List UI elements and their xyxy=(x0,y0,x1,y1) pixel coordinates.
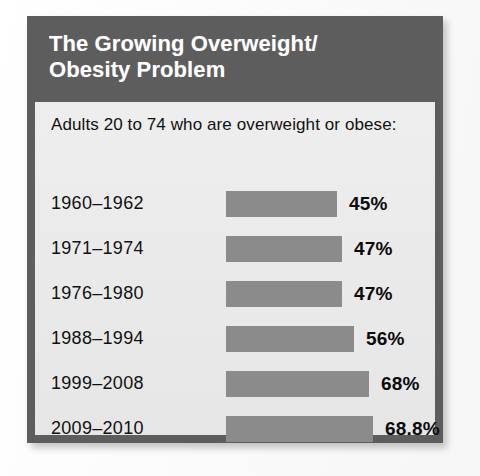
bar xyxy=(226,326,354,352)
chart-subtitle: Adults 20 to 74 who are overweight or ob… xyxy=(51,114,411,137)
bar-chart-row: 1976–198047% xyxy=(35,271,435,316)
bar xyxy=(226,416,373,442)
card-header: The Growing Overweight/ Obesity Problem xyxy=(27,16,443,96)
chart-panel: Adults 20 to 74 who are overweight or ob… xyxy=(35,102,435,435)
bar-value-label: 45% xyxy=(349,193,388,215)
bar xyxy=(226,281,342,307)
bar xyxy=(226,191,337,217)
bar-track: 68.8% xyxy=(226,416,435,442)
bar-row-label: 1971–1974 xyxy=(51,238,206,259)
bar-value-label: 47% xyxy=(354,238,393,260)
bar-chart-row: 1971–197447% xyxy=(35,226,435,271)
bar-row-label: 1960–1962 xyxy=(51,193,206,214)
bar xyxy=(226,371,369,397)
bar-row-label: 1988–1994 xyxy=(51,328,206,349)
bar-track: 45% xyxy=(226,191,435,217)
bar-chart-row: 2009–201068.8% xyxy=(35,406,435,451)
bar-track: 47% xyxy=(226,236,435,262)
bar xyxy=(226,236,342,262)
card-title: The Growing Overweight/ Obesity Problem xyxy=(49,31,429,83)
bar-chart-row: 1988–199456% xyxy=(35,316,435,361)
bar-row-label: 1999–2008 xyxy=(51,373,206,394)
infographic-card: The Growing Overweight/ Obesity Problem … xyxy=(27,16,443,443)
bar-chart-rows: 1960–196245%1971–197447%1976–198047%1988… xyxy=(35,181,435,451)
bar-row-label: 2009–2010 xyxy=(51,418,206,439)
card-title-line-2: Obesity Problem xyxy=(49,57,429,83)
bar-value-label: 47% xyxy=(354,283,393,305)
bar-value-label: 68.8% xyxy=(385,418,440,440)
bar-row-label: 1976–1980 xyxy=(51,283,206,304)
bar-value-label: 56% xyxy=(366,328,405,350)
bar-track: 56% xyxy=(226,326,435,352)
bar-value-label: 68% xyxy=(381,373,420,395)
card-title-line-1: The Growing Overweight/ xyxy=(49,31,429,57)
bar-chart-row: 1999–200868% xyxy=(35,361,435,406)
bar-track: 47% xyxy=(226,281,435,307)
bar-track: 68% xyxy=(226,371,435,397)
bar-chart-row: 1960–196245% xyxy=(35,181,435,226)
